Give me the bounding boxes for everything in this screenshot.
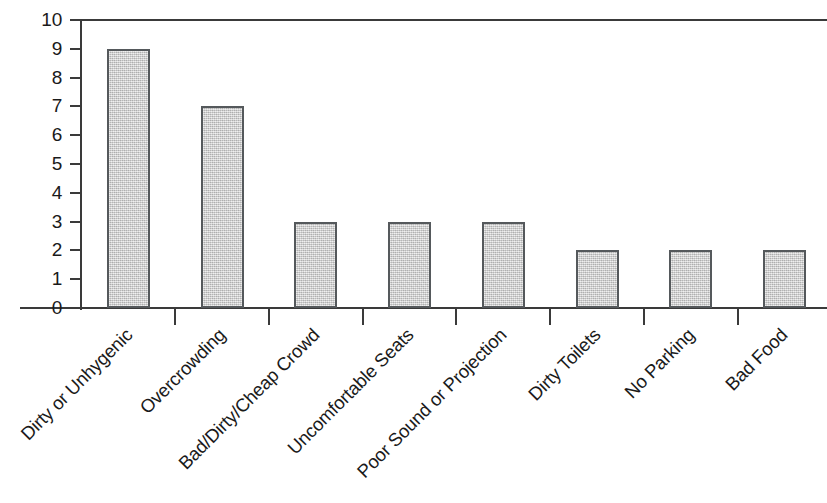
y-axis-tick (70, 105, 81, 107)
x-axis-tick (268, 308, 270, 325)
y-axis-tick-label: 0 (2, 298, 62, 317)
y-axis-tick (70, 192, 81, 194)
y-axis-tick (70, 48, 81, 50)
x-axis-tick (643, 308, 645, 325)
y-axis-tick (70, 307, 81, 309)
bar (294, 222, 337, 308)
bar-chart: 012345678910 Dirty or UnhygenicOvercrowd… (0, 0, 827, 503)
x-axis-tick (362, 308, 364, 325)
bar (201, 106, 244, 308)
x-axis-tick (549, 308, 551, 325)
y-axis-tick (70, 278, 81, 280)
y-axis-tick-label: 4 (2, 183, 62, 202)
y-axis-tick (70, 221, 81, 223)
y-axis-tick-label: 5 (2, 154, 62, 173)
bar (482, 222, 525, 308)
x-axis-tick (737, 308, 739, 325)
bar (576, 250, 619, 308)
y-axis-tick-label: 6 (2, 125, 62, 144)
y-axis-tick-label: 3 (2, 212, 62, 231)
bar (388, 222, 431, 308)
bar (107, 49, 150, 308)
y-axis-tick-label: 7 (2, 96, 62, 115)
y-axis-tick-label: 2 (2, 240, 62, 259)
y-axis-tick-label: 10 (2, 10, 62, 29)
y-axis-tick (70, 249, 81, 251)
y-axis-tick (70, 77, 81, 79)
y-axis-tick-label: 9 (2, 39, 62, 58)
y-axis-tick-label: 8 (2, 68, 62, 87)
plot-top-border (81, 19, 827, 21)
bar (669, 250, 712, 308)
y-axis-tick (70, 163, 81, 165)
y-axis-tick (70, 134, 81, 136)
bar (763, 250, 806, 308)
x-axis-tick (455, 308, 457, 325)
y-axis-tick-label: 1 (2, 269, 62, 288)
y-axis-tick (70, 19, 81, 21)
x-axis-tick (174, 308, 176, 325)
